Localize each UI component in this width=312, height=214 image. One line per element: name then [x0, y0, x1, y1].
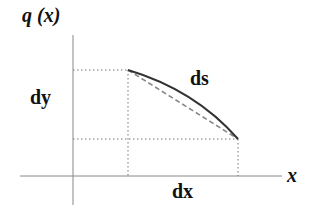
chord-line [128, 70, 238, 139]
y-axis-label: q (x) [22, 4, 60, 27]
dx-label: dx [172, 180, 193, 202]
arc-length-diagram: q (x) dy ds dx x [0, 0, 312, 214]
dy-label: dy [30, 86, 51, 109]
x-axis-label: x [286, 164, 297, 186]
y-axis-label-text: q (x) [22, 4, 60, 27]
ds-label: ds [190, 67, 209, 89]
